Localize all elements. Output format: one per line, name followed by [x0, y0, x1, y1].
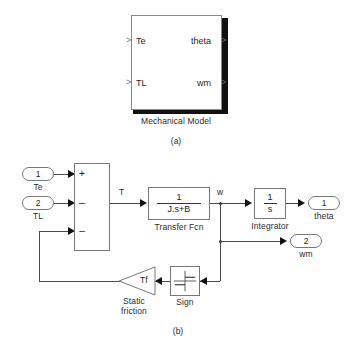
subsystem-name-label: Mechanical Model	[141, 117, 211, 127]
signal-label-speed: w	[217, 188, 223, 198]
gain-value-label: Tf	[140, 275, 148, 285]
inport-1-label-te: Te	[33, 183, 42, 193]
subsystem-output-label-theta: theta	[191, 36, 211, 46]
outport-2-wm[interactable]: 2	[290, 234, 322, 248]
inport-1-number: 1	[36, 169, 41, 179]
wire-sum-to-transferfcn	[110, 203, 142, 204]
outport-2-label-wm: wm	[299, 250, 312, 260]
sum-sign-1: +	[78, 169, 86, 179]
sign-block-name-label: Sign	[176, 298, 193, 308]
arrowhead-wm-outport	[280, 237, 287, 245]
panel-a-caption: (a)	[171, 136, 181, 146]
figure-canvas: > > > > Te TL theta wm Mechanical Model …	[0, 0, 353, 344]
sum-sign-3: –	[78, 226, 86, 236]
arrowhead-integrator-in	[245, 199, 252, 207]
transfer-function-block[interactable]: 1 J.s+B	[148, 187, 210, 220]
integrator-fraction: 1 s	[264, 193, 277, 214]
subsystem-output-label-wm: wm	[197, 78, 211, 88]
outport-2-number: 2	[304, 236, 309, 246]
signal-label-torque: T	[119, 188, 124, 198]
inport-2-label-tl: TL	[33, 212, 43, 222]
subsystem-input-label-te: Te	[136, 36, 146, 46]
subsystem-mechanical-model[interactable]	[131, 15, 222, 110]
sum-sign-2: –	[78, 198, 86, 208]
panel-b-caption: (b)	[173, 326, 183, 336]
integrator-name-label: Integrator	[251, 222, 288, 232]
integrator-denominator: s	[268, 204, 273, 214]
sign-block[interactable]	[170, 266, 200, 296]
arrowhead-transferfcn-in	[140, 199, 147, 207]
wire-transferfcn-to-node-w	[210, 203, 247, 204]
integrator-block[interactable]: 1 s	[254, 188, 286, 219]
wire-feedback-to-sum	[39, 231, 70, 232]
outport-1-label-theta: theta	[314, 212, 333, 222]
gain-block-name-line2: friction	[121, 307, 147, 317]
integrator-numerator: 1	[267, 193, 272, 203]
gain-block-static-friction[interactable]: Tf	[118, 266, 156, 296]
input-port-chevron-te: >	[126, 36, 131, 45]
sign-function-icon	[170, 267, 200, 295]
wire-feedback-vertical	[39, 231, 40, 281]
transfer-function-denominator: J.s+B	[168, 204, 191, 214]
arrowhead-sign-in	[200, 277, 207, 285]
subsystem-shadow-right	[222, 18, 228, 114]
inport-1-te[interactable]: 1	[22, 167, 54, 181]
output-port-chevron-theta: >	[221, 36, 226, 45]
transfer-function-name-label: Transfer Fcn	[154, 223, 203, 233]
wire-w-to-wm-outport	[220, 241, 282, 242]
inport-2-tl[interactable]: 2	[22, 196, 54, 210]
outport-1-number: 1	[322, 198, 327, 208]
arrowhead-theta-outport	[298, 199, 305, 207]
output-port-chevron-wm: >	[221, 78, 226, 87]
transfer-function-fraction: 1 J.s+B	[157, 193, 201, 214]
outport-1-theta[interactable]: 1	[308, 196, 340, 210]
inport-2-number: 2	[36, 198, 41, 208]
input-port-chevron-tl: >	[126, 78, 131, 87]
arrowhead-gain-in	[155, 277, 162, 285]
transfer-function-numerator: 1	[176, 193, 181, 203]
subsystem-input-label-tl: TL	[136, 78, 147, 88]
